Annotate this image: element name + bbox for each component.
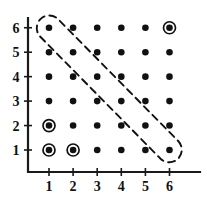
- lattice-dot: [166, 98, 173, 105]
- axis-lines: [28, 18, 200, 172]
- lattice-dot: [118, 73, 125, 80]
- plot-canvas: 123456 123456: [0, 0, 207, 199]
- circled-point-rings: [43, 22, 176, 156]
- lattice-dot: [166, 24, 173, 31]
- lattice-dot: [70, 147, 77, 154]
- lattice-dot: [46, 147, 53, 154]
- x-axis-tick-labels: 123456: [46, 179, 174, 194]
- x-tick-label-6: 6: [166, 179, 173, 194]
- lattice-dot: [118, 24, 125, 31]
- y-tick-label-1: 1: [13, 143, 20, 158]
- lattice-dot: [166, 122, 173, 129]
- y-tick-label-3: 3: [13, 94, 20, 109]
- lattice-dot: [166, 73, 173, 80]
- lattice-dot: [94, 122, 101, 129]
- lattice-dots: [46, 24, 173, 153]
- lattice-dot: [94, 98, 101, 105]
- lattice-dot: [166, 147, 173, 154]
- x-tick-label-2: 2: [70, 179, 77, 194]
- lattice-dot: [166, 49, 173, 56]
- lattice-dot: [118, 49, 125, 56]
- lattice-dot: [94, 49, 101, 56]
- lattice-dot: [94, 147, 101, 154]
- lattice-dot: [142, 73, 149, 80]
- lattice-dot: [142, 122, 149, 129]
- lattice-dot: [118, 122, 125, 129]
- y-tick-label-6: 6: [13, 21, 20, 36]
- lattice-dot: [70, 49, 77, 56]
- lattice-dot: [70, 98, 77, 105]
- lattice-dot: [142, 24, 149, 31]
- scatter-figure: 123456 123456: [0, 0, 207, 199]
- lattice-dot: [46, 24, 53, 31]
- x-tick-label-1: 1: [46, 179, 53, 194]
- y-axis-tick-labels: 123456: [13, 21, 20, 158]
- x-tick-label-4: 4: [118, 179, 125, 194]
- lattice-dot: [142, 49, 149, 56]
- lattice-dot: [118, 147, 125, 154]
- dashed-capsule-icon: [37, 16, 182, 163]
- axes: [28, 18, 200, 172]
- lattice-dot: [142, 98, 149, 105]
- y-tick-label-2: 2: [13, 119, 20, 134]
- lattice-dot: [70, 73, 77, 80]
- x-tick-label-5: 5: [142, 179, 149, 194]
- y-tick-label-4: 4: [13, 70, 20, 85]
- x-tick-label-3: 3: [94, 179, 101, 194]
- lattice-dot: [94, 24, 101, 31]
- lattice-dot: [118, 98, 125, 105]
- lattice-dot: [46, 49, 53, 56]
- lattice-dot: [46, 73, 53, 80]
- dashed-capsule-annotation: [37, 16, 182, 163]
- y-tick-label-5: 5: [13, 45, 20, 60]
- lattice-dot: [46, 122, 53, 129]
- lattice-dot: [70, 24, 77, 31]
- lattice-dot: [94, 73, 101, 80]
- lattice-dot: [142, 147, 149, 154]
- lattice-dot: [70, 122, 77, 129]
- lattice-dot: [46, 98, 53, 105]
